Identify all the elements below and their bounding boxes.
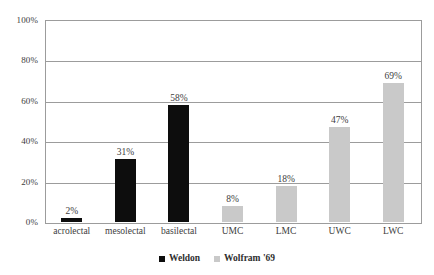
bar-value-label: 69% xyxy=(385,71,402,81)
bar-slot: 31% xyxy=(99,20,153,222)
legend-swatch-icon xyxy=(214,256,220,262)
y-axis-tick-label: 20% xyxy=(0,177,38,186)
legend-label: Wolfram '69 xyxy=(224,253,275,264)
bar[interactable]: 69% xyxy=(383,83,404,222)
bar-value-label: 31% xyxy=(117,147,134,157)
legend-item-wolfram[interactable]: Wolfram '69 xyxy=(214,253,275,264)
bars-layer: 2% 31% 58% 8% 18% 47% xyxy=(45,20,420,222)
bar-slot: 47% xyxy=(313,20,367,222)
y-axis-tick-label: 80% xyxy=(0,56,38,65)
bar-slot: 58% xyxy=(152,20,206,222)
x-axis-category-label: UMC xyxy=(206,226,260,237)
bar-slot: 8% xyxy=(206,20,260,222)
bar-chart: 100% 80% 60% 40% 20% 0% 2% 31% 58% xyxy=(0,0,434,275)
y-axis-tick-label: 100% xyxy=(0,16,38,25)
x-axis-category-label: acrolectal xyxy=(45,226,99,237)
bar-value-label: 8% xyxy=(226,194,239,204)
bar[interactable]: 2% xyxy=(61,218,82,222)
x-axis-category-label: LMC xyxy=(259,226,313,237)
bar[interactable]: 58% xyxy=(168,105,189,222)
y-axis-tick-label: 0% xyxy=(0,218,38,227)
y-axis-tick-label: 40% xyxy=(0,137,38,146)
x-axis-category-label: mesolectal xyxy=(99,226,153,237)
bar-slot: 2% xyxy=(45,20,99,222)
x-axis-category-label: UWC xyxy=(313,226,367,237)
y-axis-tick-label: 60% xyxy=(0,96,38,105)
bar[interactable]: 8% xyxy=(222,206,243,222)
bar-value-label: 58% xyxy=(170,93,187,103)
bar-slot: 69% xyxy=(366,20,420,222)
legend-item-weldon[interactable]: Weldon xyxy=(159,253,200,264)
bar-value-label: 2% xyxy=(65,206,78,216)
x-axis-category-label: LWC xyxy=(366,226,420,237)
bar[interactable]: 47% xyxy=(329,127,350,222)
chart-legend: Weldon Wolfram '69 xyxy=(0,253,434,264)
legend-label: Weldon xyxy=(169,253,200,264)
bar-value-label: 47% xyxy=(331,115,348,125)
x-axis-category-label: basilectal xyxy=(152,226,206,237)
bar-slot: 18% xyxy=(259,20,313,222)
y-axis: 100% 80% 60% 40% 20% 0% xyxy=(0,20,40,222)
bar[interactable]: 31% xyxy=(115,159,136,222)
legend-swatch-icon xyxy=(159,256,165,262)
x-axis: acrolectal mesolectal basilectal UMC LMC… xyxy=(45,226,420,237)
bar[interactable]: 18% xyxy=(276,186,297,222)
bar-value-label: 18% xyxy=(277,174,294,184)
